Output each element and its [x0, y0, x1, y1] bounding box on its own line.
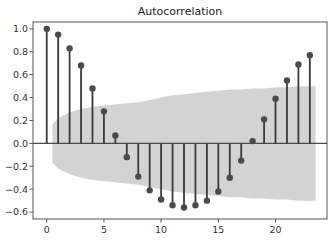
y-tick-label: 1.0: [13, 23, 28, 34]
stem-marker: [44, 26, 50, 32]
stem-marker: [295, 61, 301, 67]
stem-marker: [55, 31, 61, 37]
y-tick-label: −0.6: [5, 206, 28, 217]
stem-marker: [204, 197, 210, 203]
stem-marker: [238, 157, 244, 163]
stem-marker: [169, 202, 175, 208]
y-tick-label: −0.2: [5, 161, 28, 172]
stem-marker: [135, 173, 141, 179]
y-tick-label: 0.4: [13, 92, 28, 103]
stem-marker: [249, 138, 255, 144]
x-tick-label: 0: [44, 224, 50, 235]
x-axis: 05101520: [44, 219, 282, 235]
stem-marker: [192, 202, 198, 208]
x-tick-label: 20: [269, 224, 281, 235]
stem-marker: [261, 116, 267, 122]
stem-marker: [307, 52, 313, 58]
x-tick-label: 5: [101, 224, 107, 235]
x-tick-label: 15: [212, 224, 224, 235]
stem-marker: [227, 175, 233, 181]
stem-marker: [215, 188, 221, 194]
stem-marker: [158, 196, 164, 202]
y-tick-label: 0.6: [13, 69, 28, 80]
stem-marker: [272, 96, 278, 102]
stem-marker: [146, 187, 152, 193]
y-tick-label: 0.2: [13, 115, 28, 126]
y-axis: −0.6−0.4−0.20.00.20.40.60.81.0: [5, 23, 33, 217]
stem-marker: [124, 154, 130, 160]
autocorrelation-chart: Autocorrelation 05101520 −0.6−0.4−0.20.0…: [0, 0, 336, 240]
y-tick-label: 0.8: [13, 46, 28, 57]
stem-lag-18: [249, 138, 255, 144]
stem-marker: [112, 132, 118, 138]
stem-marker: [284, 77, 290, 83]
stem-marker: [66, 45, 72, 51]
stem-lag-0: [44, 26, 50, 144]
chart-title: Autocorrelation: [138, 5, 223, 18]
y-tick-label: 0.0: [13, 138, 28, 149]
stem-marker: [181, 204, 187, 210]
y-tick-label: −0.4: [5, 184, 28, 195]
stem-marker: [89, 85, 95, 91]
stem-marker: [78, 62, 84, 68]
x-tick-label: 10: [155, 224, 167, 235]
stem-marker: [101, 108, 107, 114]
